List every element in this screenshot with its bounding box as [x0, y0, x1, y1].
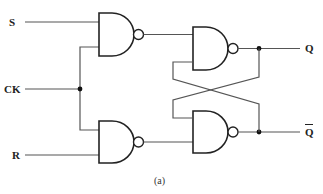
nand-gate-q — [193, 27, 238, 70]
nand-gate-qbar — [193, 111, 238, 153]
output-label-qbar: Q — [305, 126, 314, 138]
input-label-ck: CK — [4, 83, 21, 95]
junction-ck — [78, 87, 83, 92]
input-label-r: R — [12, 149, 21, 161]
input-label-s: S — [9, 16, 15, 28]
figure-caption: (a) — [154, 175, 165, 187]
nand-gate-s — [99, 13, 144, 56]
sr-flip-flop-diagram: S CK R Q Q (a) — [0, 0, 323, 194]
output-label-q: Q — [305, 42, 314, 54]
nand-gate-r — [99, 121, 144, 163]
wire-ck-distribution — [80, 47, 99, 130]
